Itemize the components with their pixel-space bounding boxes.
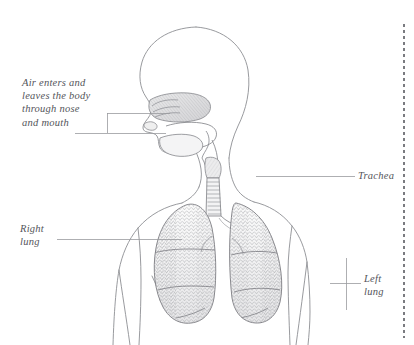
label-left-lung: Left lung [364,272,384,298]
left-lung-organ [224,196,290,330]
label-trachea: Trachea [358,169,394,182]
label-right-lung: Right lung [20,222,44,248]
anatomy-figure-page: Air enters and leaves the body through n… [0,0,414,345]
label-air-enters-nose-and-mouth: Air enters and leaves the body through n… [22,76,90,129]
right-lung-organ [150,198,222,330]
respiratory-system-illustration [0,0,414,345]
